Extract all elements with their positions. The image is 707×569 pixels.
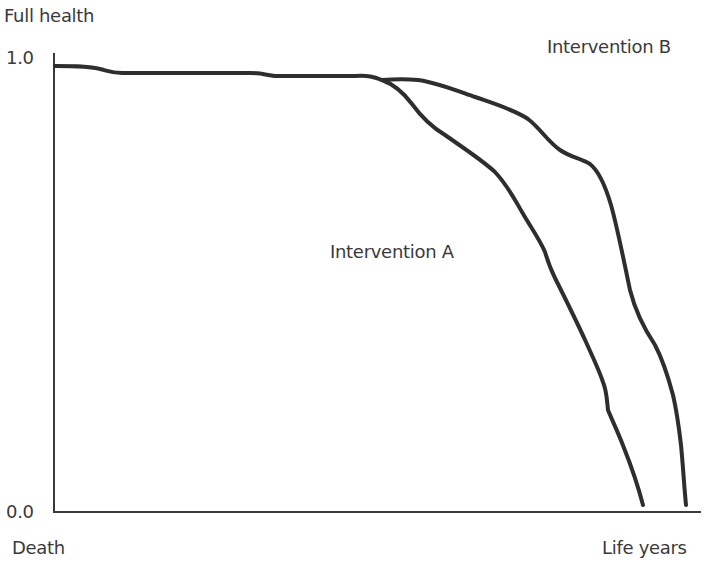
chart-plot-area	[0, 0, 707, 569]
series-line-intervention-b	[382, 79, 686, 505]
series-line-intervention-a	[382, 80, 643, 505]
shared-curve-segment	[55, 66, 382, 80]
